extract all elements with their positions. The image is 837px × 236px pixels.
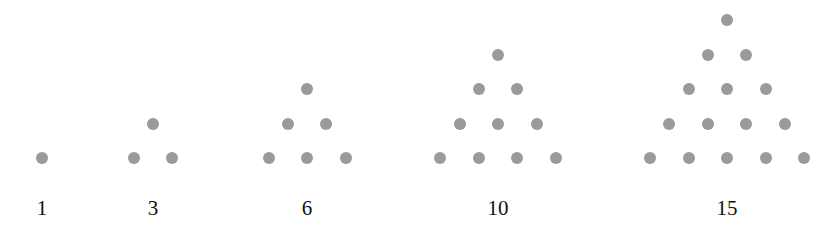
dot bbox=[492, 118, 504, 130]
dot bbox=[663, 118, 675, 130]
dot bbox=[301, 83, 313, 95]
dot bbox=[473, 152, 485, 164]
dot bbox=[340, 152, 352, 164]
dot bbox=[740, 118, 752, 130]
dot bbox=[760, 83, 772, 95]
figure-label: 15 bbox=[717, 196, 738, 221]
figure-label: 1 bbox=[37, 196, 48, 221]
dot bbox=[282, 118, 294, 130]
dot bbox=[320, 118, 332, 130]
dot bbox=[779, 118, 791, 130]
figure-label: 6 bbox=[302, 196, 313, 221]
dot bbox=[147, 118, 159, 130]
dot bbox=[683, 83, 695, 95]
dot bbox=[454, 118, 466, 130]
dot bbox=[492, 49, 504, 61]
dot bbox=[798, 152, 810, 164]
dot bbox=[683, 152, 695, 164]
dot bbox=[166, 152, 178, 164]
figure-label: 3 bbox=[148, 196, 159, 221]
dot bbox=[721, 152, 733, 164]
dot bbox=[511, 83, 523, 95]
dot bbox=[301, 152, 313, 164]
dot bbox=[550, 152, 562, 164]
dot bbox=[721, 14, 733, 26]
dot bbox=[644, 152, 656, 164]
figure-label: 10 bbox=[488, 196, 509, 221]
dot bbox=[511, 152, 523, 164]
dot bbox=[740, 49, 752, 61]
dot bbox=[721, 83, 733, 95]
dot bbox=[760, 152, 772, 164]
dot bbox=[702, 49, 714, 61]
dot bbox=[473, 83, 485, 95]
dot bbox=[36, 152, 48, 164]
dot bbox=[531, 118, 543, 130]
dot bbox=[434, 152, 446, 164]
dot bbox=[702, 118, 714, 130]
dot bbox=[128, 152, 140, 164]
dot bbox=[263, 152, 275, 164]
